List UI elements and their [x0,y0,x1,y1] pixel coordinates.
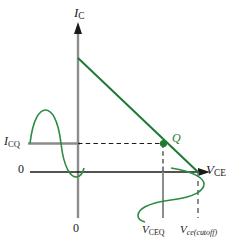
x-axis-label: VCE [206,163,226,178]
icq-label: ICQ [4,135,20,149]
load-line-figure: IC VCE ICQ 0 0 Q VCEQ Vce(cutoff) [0,0,235,248]
origin-label: 0 [73,222,79,234]
y-axis-arrowhead [74,22,82,34]
y-axis-label: IC [74,6,85,21]
dc-load-line [78,58,199,173]
collector-emitter-sine-wave [138,168,204,222]
q-point-label: Q [172,132,181,144]
zero-level-label: 0 [18,163,24,175]
vcutoff-label: Vce(cutoff) [180,224,217,237]
vceq-label: VCEQ [142,224,165,237]
figure-canvas [0,0,235,248]
q-point-marker [160,140,167,147]
